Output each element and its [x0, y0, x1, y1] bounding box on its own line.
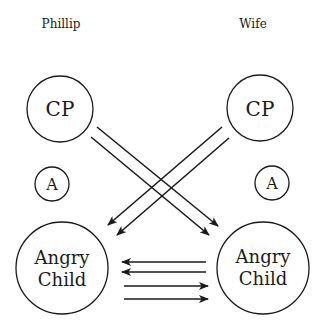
diagram-canvas: Phillip Wife CP CP A A Angry Child Angry…	[0, 0, 325, 331]
wife-adult-node: A	[255, 166, 289, 200]
arrow-wife-cp-to-phillip-child-1	[108, 127, 222, 225]
arrow-phillip-cp-to-wife-child-1	[97, 127, 218, 226]
phillip-cp-node: CP	[27, 76, 93, 142]
wife-cp-label: CP	[246, 97, 275, 121]
phillip-cp-label: CP	[46, 97, 75, 121]
wife-angry-child-node: Angry Child	[217, 222, 309, 314]
wife-child-line1: Angry	[235, 246, 292, 267]
column-label-phillip: Phillip	[42, 17, 81, 31]
wife-a-label: A	[265, 174, 278, 193]
column-label-wife: Wife	[239, 17, 267, 31]
phillip-angry-child-node: Angry Child	[16, 222, 108, 314]
arrow-phillip-cp-to-wife-child-2	[91, 137, 209, 235]
wife-child-line2: Child	[239, 268, 287, 289]
wife-cp-node: CP	[227, 75, 293, 141]
phillip-child-line2: Child	[38, 269, 86, 290]
phillip-child-line1: Angry	[34, 247, 91, 268]
phillip-adult-node: A	[35, 167, 69, 201]
phillip-a-label: A	[45, 175, 58, 194]
